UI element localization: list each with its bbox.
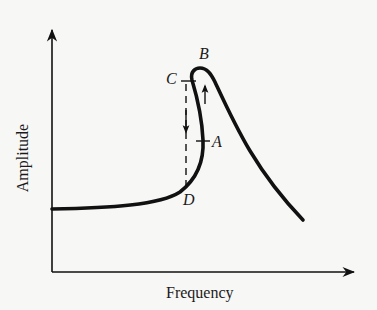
resonance-diagram bbox=[0, 0, 377, 310]
x-axis-label: Frequency bbox=[166, 284, 234, 302]
point-c-label: C bbox=[166, 70, 177, 88]
point-b-label: B bbox=[199, 45, 209, 63]
point-d-label: D bbox=[183, 191, 195, 209]
point-a-label: A bbox=[212, 133, 222, 151]
response-curve bbox=[52, 68, 303, 220]
y-axis-label: Amplitude bbox=[14, 124, 32, 192]
